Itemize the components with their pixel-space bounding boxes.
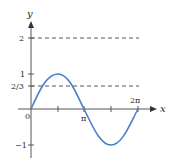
x-axis-arrow-icon	[150, 106, 157, 112]
y-axis-arrow-icon	[28, 21, 34, 28]
x-axis-label: x	[160, 103, 166, 114]
y-axis-label: y	[26, 8, 33, 19]
y-label-1: 1	[20, 70, 25, 79]
pi-label: π	[81, 114, 86, 123]
origin-label: 0	[25, 112, 30, 121]
two-pi-label: 2π	[130, 96, 140, 105]
y-label-neg1: −1	[15, 141, 27, 150]
sine-chart: y x 0 π 2π 2 1 2/3 −1	[0, 0, 171, 163]
y-label-2: 2	[19, 34, 24, 43]
y-label-23: 2/3	[11, 82, 24, 91]
